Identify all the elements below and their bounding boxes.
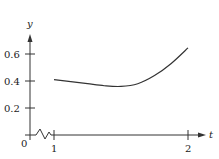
y-tick-label: 0.4 <box>4 76 20 87</box>
x-axis-break <box>36 129 51 139</box>
x-ticks: 12 <box>51 130 191 154</box>
x-axis-label: t <box>209 129 214 140</box>
y-tick-label: 0.6 <box>4 49 20 60</box>
origin-label: 0 <box>21 138 27 149</box>
x-axis-arrow-icon <box>198 133 206 138</box>
y-tick-label: 0.2 <box>4 103 20 114</box>
y-axis-arrow-icon <box>28 34 33 42</box>
y-axis-label: y <box>26 18 33 29</box>
data-curve <box>54 48 188 87</box>
x-tick-label: 1 <box>51 143 57 154</box>
chart: y t 0 12 0.20.40.6 <box>0 0 219 159</box>
x-tick-label: 2 <box>185 143 191 154</box>
